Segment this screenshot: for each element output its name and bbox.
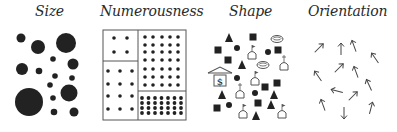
dot-bottom-right xyxy=(166,106,170,110)
dot-bottom-right xyxy=(179,101,183,105)
dot-bottom-left xyxy=(130,107,134,111)
tomb-flag-icon xyxy=(251,71,259,85)
dot-bottom-left xyxy=(130,82,134,86)
size-circle xyxy=(50,95,56,101)
dot-top-right xyxy=(160,43,164,47)
size-circle xyxy=(51,109,58,116)
triangle-icon xyxy=(252,111,260,120)
size-circle xyxy=(68,59,79,70)
arrow-icon xyxy=(330,87,343,96)
size-circle xyxy=(47,82,53,88)
dot-top-right xyxy=(160,58,164,62)
arrow-icon xyxy=(333,62,346,75)
dot-top-right xyxy=(151,43,155,47)
size-circle xyxy=(56,33,76,53)
square-icon xyxy=(274,80,281,87)
dot-bottom-right xyxy=(147,101,151,105)
dot-top-right xyxy=(143,35,147,39)
dot-bottom-left xyxy=(106,107,110,111)
dot-top-right xyxy=(176,67,180,71)
dollar-sign: $ xyxy=(217,76,223,87)
triangle-icon xyxy=(238,60,246,69)
dot-bottom-right xyxy=(179,106,183,110)
dot-bottom-right xyxy=(173,106,177,110)
dot-bottom-right xyxy=(153,101,157,105)
size-circle xyxy=(36,68,43,75)
dot-top-left xyxy=(112,36,116,40)
dot-bottom-right xyxy=(160,111,164,115)
dot-top-left xyxy=(112,50,116,54)
arrow-icon xyxy=(313,42,326,55)
circle-icon xyxy=(234,45,240,51)
arrow-icon xyxy=(312,69,324,82)
dot-top-right xyxy=(151,75,155,79)
circle-icon xyxy=(226,102,232,108)
arrow-icon xyxy=(341,107,347,119)
dot-bottom-left xyxy=(106,82,110,86)
shape-panel: $ xyxy=(208,33,288,120)
dot-bottom-right xyxy=(166,101,170,105)
dot-bottom-right xyxy=(140,106,144,110)
dot-top-right xyxy=(176,58,180,62)
dot-top-right xyxy=(176,43,180,47)
dot-bottom-left xyxy=(106,69,110,73)
dot-bottom-left xyxy=(130,69,134,73)
dot-top-right xyxy=(151,35,155,39)
circle-icon xyxy=(234,75,240,81)
dot-top-right xyxy=(151,50,155,54)
dot-top-right xyxy=(168,75,172,79)
dot-top-right xyxy=(176,50,180,54)
dot-top-right xyxy=(160,35,164,39)
dot-bottom-right xyxy=(179,111,183,115)
square-icon xyxy=(255,100,262,107)
dot-bottom-right xyxy=(147,111,151,115)
dot-bottom-right xyxy=(166,96,170,100)
arrow-icon xyxy=(349,39,359,52)
arrow-icon xyxy=(369,51,381,64)
tomb-flag-icon xyxy=(248,45,256,59)
size-panel xyxy=(15,33,79,117)
dot-top-right xyxy=(168,50,172,54)
dot-bottom-left xyxy=(118,69,122,73)
dot-bottom-right xyxy=(160,96,164,100)
square-icon xyxy=(275,47,282,54)
tomb-flag-icon xyxy=(278,104,286,118)
tomb-cross-icon xyxy=(236,83,244,98)
diagram-canvas: $ xyxy=(0,0,397,132)
dot-top-right xyxy=(143,67,147,71)
dot-top-right xyxy=(143,83,147,87)
dot-top-left xyxy=(125,50,129,54)
arrow-icon xyxy=(367,101,376,114)
dot-bottom-right xyxy=(173,96,177,100)
triangle-icon xyxy=(225,33,233,42)
dot-bottom-right xyxy=(160,101,164,105)
dot-top-right xyxy=(143,75,147,79)
square-icon xyxy=(250,34,257,41)
dot-top-right xyxy=(151,58,155,62)
dot-bottom-right xyxy=(173,111,177,115)
dot-top-right xyxy=(176,83,180,87)
triangle-icon xyxy=(270,90,278,99)
dot-top-right xyxy=(160,75,164,79)
dot-bottom-right xyxy=(153,106,157,110)
dot-bottom-right xyxy=(153,96,157,100)
circle-icon xyxy=(265,49,271,55)
square-icon xyxy=(214,105,221,112)
dot-bottom-left xyxy=(118,82,122,86)
numerousness-panel xyxy=(103,30,186,120)
dot-bottom-right xyxy=(140,96,144,100)
size-circle xyxy=(61,85,78,102)
dot-bottom-right xyxy=(153,111,157,115)
arrow-icon xyxy=(347,90,360,103)
dot-bottom-right xyxy=(140,101,144,105)
square-icon xyxy=(215,47,222,54)
dot-bottom-left xyxy=(130,94,134,98)
dot-top-right xyxy=(168,43,172,47)
dot-top-right xyxy=(143,50,147,54)
size-circle xyxy=(16,63,28,75)
orientation-panel xyxy=(312,39,381,119)
triangle-icon xyxy=(218,90,226,99)
size-circle xyxy=(50,56,56,62)
dot-bottom-right xyxy=(160,106,164,110)
dot-bottom-right xyxy=(140,111,144,115)
